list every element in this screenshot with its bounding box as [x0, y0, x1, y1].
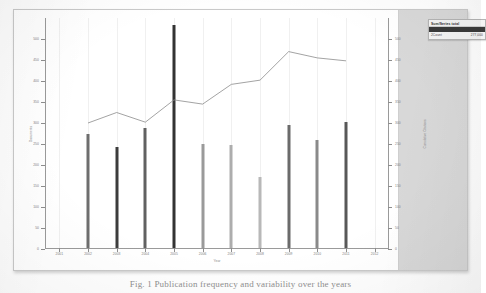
x-axis-tick-label: 2011	[342, 252, 350, 256]
x-axis-tick-label: 2005	[170, 252, 178, 256]
x-axis-tick-label: 2010	[313, 252, 321, 256]
figure-caption: Fig. 1 Publication frequency and variabi…	[0, 279, 481, 293]
y-axis-right-tick-label: 200	[395, 163, 401, 167]
y-axis-right-tick-label: 150	[395, 184, 401, 188]
legend-box[interactable]: Sum/Series total Series 12Count277,000	[428, 19, 486, 40]
y-axis-left-tick-label: 50	[35, 226, 39, 230]
line-series-path	[88, 52, 346, 123]
y-axis-right-tick-label: 0	[395, 247, 397, 251]
y-axis-left-tick-label: 500	[33, 37, 39, 41]
y-axis-left-tick-label: 350	[33, 100, 39, 104]
plot-area: 050100150200250300350400450500 050100150…	[45, 18, 389, 249]
x-axis-title: Year	[214, 259, 221, 263]
legend-row-value: 277,000	[471, 33, 483, 37]
y-axis-right-tick-label: 300	[395, 121, 401, 125]
x-axis-tick-label: 2012	[371, 252, 379, 256]
y-axis-right-tick-label: 350	[395, 100, 401, 104]
y-axis-left-title: Documents	[29, 125, 33, 141]
x-axis-tick-label: 2003	[113, 252, 121, 256]
y-axis-left-tick	[41, 249, 45, 250]
y-axis-left-tick-label: 200	[33, 163, 39, 167]
y-axis-left-tick-label: 450	[33, 58, 39, 62]
y-axis-right-tick-label: 250	[395, 142, 401, 146]
y-axis-right-tick	[388, 249, 392, 250]
y-axis-left-tick-label: 0	[37, 247, 39, 251]
x-axis-tick-label: 2004	[141, 252, 149, 256]
x-axis-tick-label: 2009	[285, 252, 293, 256]
x-axis-tick-label: 2008	[256, 252, 264, 256]
y-axis-right-title: Cumulative Citations	[423, 119, 427, 148]
x-axis-tick-label: 2007	[227, 252, 235, 256]
y-axis-left-tick-label: 400	[33, 79, 39, 83]
chart-figure: 050100150200250300350400450500 050100150…	[13, 9, 468, 271]
legend-row[interactable]: 2Count277,000	[429, 32, 485, 37]
line-series	[45, 18, 389, 249]
y-axis-left-tick-label: 100	[33, 205, 39, 209]
x-axis-tick-label: 2006	[199, 252, 207, 256]
legend-title: Sum/Series total	[429, 20, 485, 27]
y-axis-right-tick-label: 450	[395, 58, 401, 62]
x-axis-tick-label: 2001	[55, 252, 63, 256]
legend-rows: Series 12Count277,000	[429, 27, 485, 37]
y-axis-right-tick-label: 400	[395, 79, 401, 83]
y-axis-left-tick-label: 150	[33, 184, 39, 188]
y-axis-right-tick-label: 50	[395, 226, 399, 230]
legend-row-label: 2Count	[431, 33, 442, 37]
page-side-panel	[398, 10, 467, 270]
x-axis-tick-label: 2002	[84, 252, 92, 256]
y-axis-left-tick-label: 250	[33, 142, 39, 146]
y-axis-left-tick-label: 300	[33, 121, 39, 125]
y-axis-right-tick-label: 500	[395, 37, 401, 41]
y-axis-right-tick-label: 100	[395, 205, 401, 209]
